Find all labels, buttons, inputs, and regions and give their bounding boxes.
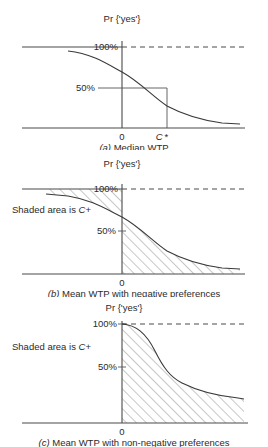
panel-a-caption: (a) Median WTP [99,142,168,150]
tick-label-100: 100% [93,318,118,329]
panel-c-caption-text: Mean WTP with non-negative preferences [50,437,230,447]
shaded-label-prefix: Shaded area is [12,341,79,352]
cstar-star: * [165,131,169,142]
figure-container: Pr {'yes'} 100% 50% 0 C* (a) Median WTP [0,0,268,447]
cstar-letter: C [156,131,163,142]
tick-label-50: 50% [98,361,118,372]
panel-b-plot: Pr {'yes'} 100% 50% 0 Shaded area is C+ … [0,150,268,297]
y-axis-label: Pr {'yes'} [106,302,143,313]
shaded-label-suffix: + [85,204,91,215]
y-axis-label: Pr {'yes'} [104,13,141,24]
panel-c-caption-letter: (c) [39,437,50,447]
panel-b-caption: (b) Mean WTP with negative preferences [48,288,221,297]
shaded-label-suffix: + [85,341,91,352]
panel-b-caption-text: Mean WTP with negative preferences [59,288,220,297]
tick-label-50: 50% [97,225,117,236]
panel-median-wtp: Pr {'yes'} 100% 50% 0 C* (a) Median WTP [0,0,268,150]
panel-c-plot: Pr {'yes'} 100% 50% 0 Shaded area is C+ … [0,297,268,447]
tick-label-50: 50% [76,82,96,93]
shaded-label-prefix: Shaded area is [12,204,79,215]
shaded-area-label: Shaded area is C+ [12,341,91,352]
panel-mean-wtp-nonnegative: Pr {'yes'} 100% 50% 0 Shaded area is C+ … [0,297,268,447]
origin-label: 0 [119,426,124,437]
panel-b-caption-letter: (b) [48,288,60,297]
panel-mean-wtp-negative: Pr {'yes'} 100% 50% 0 Shaded area is C+ … [0,150,268,297]
cstar-label: C* [156,131,169,142]
y-axis-label: Pr {'yes'} [104,158,141,169]
panel-c-caption: (c) Mean WTP with non-negative preferenc… [39,437,230,447]
tick-label-100: 100% [94,41,119,52]
origin-label: 0 [119,131,124,142]
origin-label: 0 [119,277,124,288]
panel-a-caption-letter: (a) [99,142,111,150]
panel-a-plot: Pr {'yes'} 100% 50% 0 C* (a) Median WTP [0,0,268,150]
tick-label-100: 100% [94,183,119,194]
shaded-area-positive-bids [122,324,244,423]
shaded-area-label: Shaded area is C+ [12,204,91,215]
shaded-area-positive-bids [122,217,240,274]
panel-a-caption-text: Median WTP [111,142,169,150]
